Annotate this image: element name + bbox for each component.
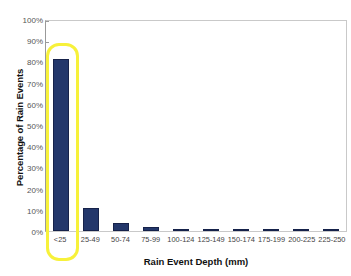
plot-area bbox=[45, 20, 347, 232]
bar-slot bbox=[136, 21, 166, 231]
bar-slot bbox=[166, 21, 196, 231]
x-axis-tick-label: 175-199 bbox=[256, 235, 286, 244]
bar-slot bbox=[76, 21, 106, 231]
bar-slot bbox=[256, 21, 286, 231]
x-axis-tick-label: 125-149 bbox=[196, 235, 226, 244]
bar-slot bbox=[286, 21, 316, 231]
bar-slot bbox=[106, 21, 136, 231]
x-axis-tick-label: 50-74 bbox=[105, 235, 135, 244]
y-axis-tick-label: 90% bbox=[14, 37, 43, 46]
bar bbox=[173, 229, 189, 231]
x-axis-tick-label: 100-124 bbox=[166, 235, 196, 244]
y-axis-tick-label: 80% bbox=[14, 58, 43, 67]
bar-slot bbox=[46, 21, 76, 231]
x-axis-tick-label: 200-225 bbox=[287, 235, 317, 244]
x-axis-tick-label: 225-250 bbox=[317, 235, 347, 244]
bar bbox=[113, 223, 129, 231]
y-axis-tick-label: 70% bbox=[14, 79, 43, 88]
bar-slot bbox=[196, 21, 226, 231]
bar bbox=[53, 59, 69, 231]
x-axis-tick-label: <25 bbox=[45, 235, 75, 244]
bar bbox=[323, 229, 339, 231]
bar bbox=[263, 229, 279, 231]
y-axis-tick-label: 100% bbox=[14, 16, 43, 25]
x-axis-title: Rain Event Depth (mm) bbox=[45, 256, 347, 267]
bar-slot bbox=[226, 21, 256, 231]
bar bbox=[83, 208, 99, 231]
y-axis-tick-label: 30% bbox=[14, 164, 43, 173]
bar bbox=[233, 229, 249, 231]
bar-chart-figure: Percentage of Rain Events 0%10%20%30%40%… bbox=[0, 0, 351, 276]
bar bbox=[203, 229, 219, 231]
y-axis-tick-label: 10% bbox=[14, 206, 43, 215]
y-axis-tick-label: 60% bbox=[14, 100, 43, 109]
bar bbox=[293, 229, 309, 231]
y-axis-tick-labels: 0%10%20%30%40%50%60%70%80%90%100% bbox=[14, 16, 43, 232]
y-axis-tick-label: 50% bbox=[14, 122, 43, 131]
y-axis-tick-mark bbox=[46, 232, 49, 233]
y-axis-tick-label: 0% bbox=[14, 228, 43, 237]
x-axis-tick-label: 75-99 bbox=[136, 235, 166, 244]
bar bbox=[143, 227, 159, 231]
y-axis-tick-label: 40% bbox=[14, 143, 43, 152]
bar-series bbox=[46, 21, 346, 231]
x-axis-tick-labels: <2525-4950-7475-99100-124125-149150-1741… bbox=[45, 235, 347, 244]
y-axis-tick-label: 20% bbox=[14, 185, 43, 194]
bar-slot bbox=[316, 21, 346, 231]
x-axis-tick-label: 25-49 bbox=[75, 235, 105, 244]
x-axis-tick-label: 150-174 bbox=[226, 235, 256, 244]
